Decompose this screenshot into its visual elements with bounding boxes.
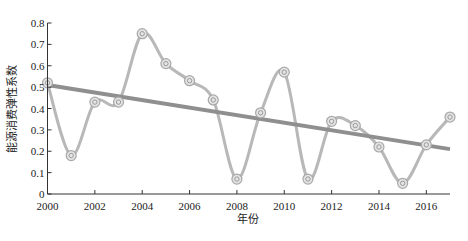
- trend-line: [48, 85, 451, 149]
- data-point: [137, 29, 147, 39]
- data-point-outer: [232, 174, 242, 184]
- data-point-outer: [279, 67, 289, 77]
- y-tick-label: 0: [39, 188, 45, 200]
- data-point-outer: [398, 178, 408, 188]
- y-tick-label: 0.8: [31, 17, 45, 29]
- data-point: [279, 67, 289, 77]
- y-tick-label: 0.2: [31, 145, 45, 157]
- data-point-outer: [303, 174, 313, 184]
- data-point: [161, 59, 171, 69]
- data-point: [114, 97, 124, 107]
- x-tick-label: 2002: [84, 200, 106, 212]
- x-tick-label: 2006: [179, 200, 202, 212]
- data-point-outer: [445, 112, 455, 122]
- x-tick-label: 2000: [37, 200, 60, 212]
- y-tick-label: 0.7: [31, 38, 45, 50]
- data-point: [327, 116, 337, 126]
- data-point: [208, 95, 218, 105]
- data-point: [303, 174, 313, 184]
- x-tick-label: 2014: [368, 200, 391, 212]
- y-ticks: 00.10.20.30.40.50.60.70.8: [31, 17, 52, 200]
- y-tick-label: 0.3: [31, 124, 45, 136]
- series-line: [48, 33, 451, 184]
- y-axis-title: 能源消费弹性系数: [5, 65, 19, 153]
- data-point: [445, 112, 455, 122]
- y-tick-label: 0.1: [31, 167, 45, 179]
- data-point: [66, 151, 76, 161]
- data-point: [256, 108, 266, 118]
- x-ticks: 200020022004200620082010201220142016: [37, 190, 438, 212]
- plot-area: [43, 29, 456, 189]
- data-point: [374, 142, 384, 152]
- data-point-outer: [350, 121, 360, 131]
- data-point: [421, 140, 431, 150]
- data-point-outer: [208, 95, 218, 105]
- y-tick-label: 0.6: [31, 60, 45, 72]
- x-axis-title: 年份: [237, 212, 259, 226]
- data-point: [90, 97, 100, 107]
- data-point: [350, 121, 360, 131]
- data-point-outer: [374, 142, 384, 152]
- x-tick-label: 2010: [273, 200, 296, 212]
- y-tick-label: 0.5: [31, 81, 45, 93]
- x-tick-label: 2012: [321, 200, 343, 212]
- data-point-outer: [185, 76, 195, 86]
- y-tick-label: 0.4: [31, 103, 45, 115]
- x-tick-label: 2016: [415, 200, 438, 212]
- x-tick-label: 2004: [131, 200, 154, 212]
- x-tick-label: 2008: [226, 200, 249, 212]
- data-point: [185, 76, 195, 86]
- data-point-outer: [90, 97, 100, 107]
- data-point-outer: [137, 29, 147, 39]
- data-point-outer: [161, 59, 171, 69]
- data-point-outer: [327, 116, 337, 126]
- data-point-outer: [66, 151, 76, 161]
- data-point: [232, 174, 242, 184]
- data-point-outer: [421, 140, 431, 150]
- data-point: [398, 178, 408, 188]
- chart: 200020022004200620082010201220142016 00.…: [0, 0, 468, 241]
- data-point-outer: [114, 97, 124, 107]
- data-point-outer: [256, 108, 266, 118]
